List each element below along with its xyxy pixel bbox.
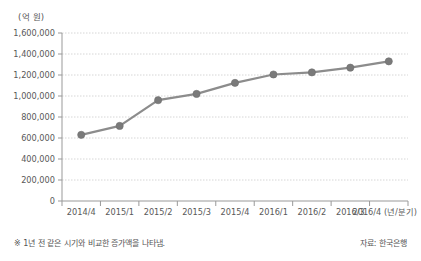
- x-axis-tick-label: 2015/3: [182, 207, 211, 217]
- chart-container: (억 원) 0200,000400,000600,000800,0001,000…: [0, 0, 421, 261]
- y-axis-tick-label: 400,000: [21, 154, 55, 164]
- data-point-marker: [385, 58, 392, 65]
- data-point-marker: [270, 71, 277, 78]
- data-point-marker: [116, 122, 123, 129]
- data-point-marker: [193, 90, 200, 97]
- data-point-marker: [78, 131, 85, 138]
- y-axis-ticks-group: [58, 33, 62, 201]
- x-axis-labels-group: 2014/42015/12015/22015/32015/42016/12016…: [67, 207, 417, 217]
- y-axis-tick-label: 1,000,000: [13, 91, 55, 101]
- data-point-marker: [231, 79, 238, 86]
- y-axis-tick-label: 1,400,000: [13, 49, 55, 59]
- y-axis-tick-label: 200,000: [21, 175, 55, 185]
- y-axis-tick-label: 1,200,000: [13, 70, 55, 80]
- gridlines-group: [62, 33, 408, 180]
- chart-source: 자료: 한국은행: [360, 237, 407, 248]
- x-axis-tick-label: 2016/4 (년/분기): [352, 207, 417, 217]
- data-markers-group: [78, 58, 393, 139]
- x-axis-tick-label: 2014/4: [67, 207, 96, 217]
- y-axis-tick-label: 800,000: [21, 112, 55, 122]
- data-point-marker: [155, 97, 162, 104]
- x-axis-tick-label: 2015/4: [221, 207, 250, 217]
- chart-footnote: ※ 1년 전 같은 시기와 비교한 증가액을 나타냄.: [14, 237, 165, 248]
- data-point-marker: [347, 64, 354, 71]
- x-axis-tick-label: 2016/2: [297, 207, 326, 217]
- y-axis-tick-label: 600,000: [21, 133, 55, 143]
- x-axis-tick-label: 2015/1: [105, 207, 134, 217]
- line-chart-svg: 0200,000400,000600,000800,0001,000,0001,…: [0, 0, 421, 261]
- y-axis-tick-label: 1,600,000: [13, 28, 55, 38]
- x-axis-tick-label: 2016/1: [259, 207, 288, 217]
- y-axis-tick-label: 0: [50, 196, 55, 206]
- data-series-line: [81, 61, 389, 135]
- y-axis-labels-group: 0200,000400,000600,000800,0001,000,0001,…: [13, 28, 55, 206]
- x-axis-tick-label: 2015/2: [144, 207, 173, 217]
- data-point-marker: [308, 69, 315, 76]
- x-axis-ticks-group: [62, 201, 408, 206]
